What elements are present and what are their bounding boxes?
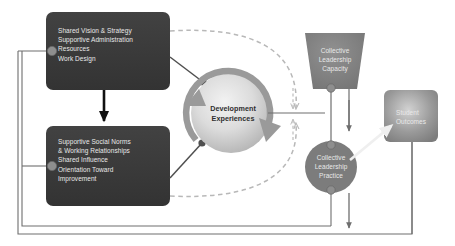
organizational-conditions-box [46, 12, 170, 90]
connector-dot-conditions [47, 46, 56, 55]
connector-dot-capacity [327, 84, 335, 92]
student-outcomes-box [384, 90, 438, 142]
diagram-canvas [0, 0, 455, 246]
collective-leadership-capacity-shape [305, 33, 365, 89]
capacity-practice-column [331, 89, 349, 141]
connector-dot-practice-bottom [327, 186, 335, 194]
lead-line-norms [170, 143, 202, 178]
leadership-model-diagram: Shared Vision & Strategy Supportive Admi… [0, 0, 455, 246]
connector-dot-practice-top [327, 141, 335, 149]
arrow-practice-to-outcomes [350, 126, 391, 160]
connector-dot-norms [47, 161, 56, 170]
lead-line-conditions [170, 57, 203, 82]
social-norms-box [46, 126, 170, 206]
